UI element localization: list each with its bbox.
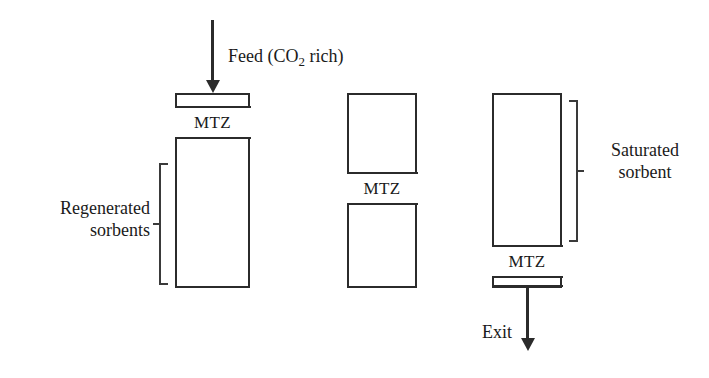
feed-label: Feed (CO2 rich) xyxy=(228,24,343,69)
column-stage-1: MTZ xyxy=(175,93,250,288)
feed-arrow-shaft xyxy=(211,20,214,82)
bracket-tick xyxy=(153,223,159,225)
column-1-mtz-band: MTZ xyxy=(175,106,251,139)
bracket-arm-top xyxy=(159,163,168,165)
feed-label-prefix: Feed (CO xyxy=(228,46,299,66)
exit-arrow-shaft xyxy=(526,287,529,340)
column-2-mtz-label: MTZ xyxy=(363,180,400,197)
column-3-mtz-band: MTZ xyxy=(492,245,563,278)
regenerated-sorbents-label: Regenerated sorbents xyxy=(10,198,150,242)
saturated-sorbent-bracket xyxy=(568,100,578,242)
column-2-mtz-band: MTZ xyxy=(347,172,418,205)
bracket-arm-top xyxy=(569,100,578,102)
bracket-tick xyxy=(578,170,584,172)
bracket-arm-bottom xyxy=(569,240,578,242)
feed-label-suffix: rich) xyxy=(305,46,343,66)
column-1-mtz-label: MTZ xyxy=(194,114,231,131)
bracket-spine xyxy=(159,163,161,285)
bracket-arm-bottom xyxy=(159,283,168,285)
column-stage-2: MTZ xyxy=(347,93,417,288)
feed-arrow xyxy=(205,20,220,94)
regenerated-sorbents-bracket xyxy=(159,163,169,285)
exit-arrow-head xyxy=(521,338,535,351)
diagram-canvas: Feed (CO2 rich) MTZ Regenerated sorbents… xyxy=(0,0,709,378)
exit-label: Exit xyxy=(420,322,512,344)
feed-arrow-head xyxy=(206,80,220,93)
column-3-mtz-label: MTZ xyxy=(508,253,545,270)
saturated-sorbent-label: Saturated sorbent xyxy=(586,140,704,184)
exit-arrow xyxy=(520,287,535,353)
column-stage-3: MTZ xyxy=(492,93,562,288)
